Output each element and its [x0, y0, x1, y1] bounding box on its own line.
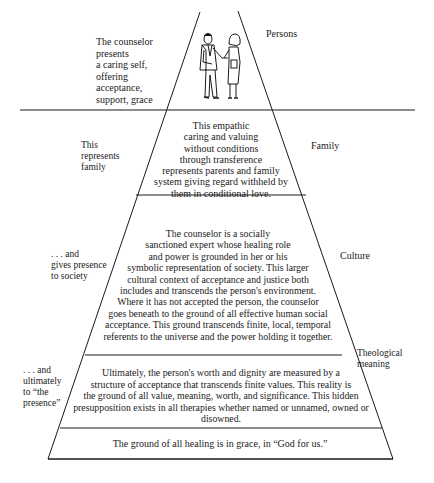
handshake-figures-icon: [200, 34, 240, 99]
culture-right-label: Culture: [340, 250, 370, 262]
theological-left-label: . . . and ultimately to “the presence”: [23, 365, 62, 409]
family-right-label: Family: [311, 140, 339, 152]
family-center-text: This empathic caring and valuing without…: [146, 120, 296, 199]
ground-center-text: The ground of all healing is in grace, i…: [60, 438, 380, 449]
culture-center-text: The counselor is a socially sanctioned e…: [100, 228, 336, 342]
theological-center-text: Ultimately, the person's worth and digni…: [66, 367, 376, 425]
culture-left-label: . . . and gives presence to society: [51, 249, 107, 282]
family-left-label: This represents family: [81, 140, 120, 173]
persons-left-label: The counselor presents a caring self, of…: [96, 36, 176, 105]
persons-right-label: Persons: [266, 28, 297, 40]
